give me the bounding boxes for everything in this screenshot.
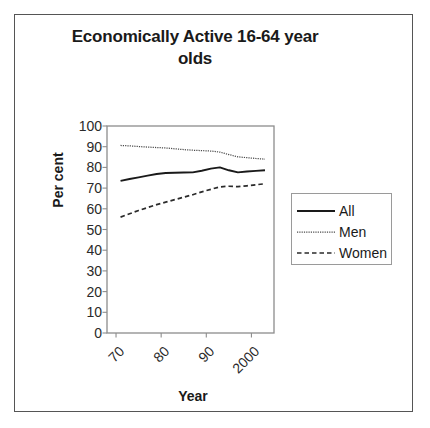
chart-plot-svg [93, 112, 293, 347]
legend-swatch-all-icon [296, 205, 336, 217]
series-line-all [121, 167, 265, 180]
x-tick-label: 80 [129, 343, 173, 387]
x-tick-label: 2000 [219, 343, 263, 387]
legend-label: Men [339, 224, 366, 240]
x-tick-label: 70 [83, 343, 127, 387]
plot-area [93, 112, 293, 347]
legend-swatch-men-icon [296, 226, 336, 238]
chart-legend: AllMenWomen [291, 193, 392, 265]
series-line-men [121, 145, 265, 159]
legend-label: Women [339, 245, 387, 261]
legend-swatch-women-icon [296, 247, 336, 259]
legend-label: All [339, 203, 355, 219]
x-tick-label: 90 [174, 343, 218, 387]
legend-item-women[interactable]: Women [292, 241, 391, 265]
series-line-women [121, 184, 265, 217]
